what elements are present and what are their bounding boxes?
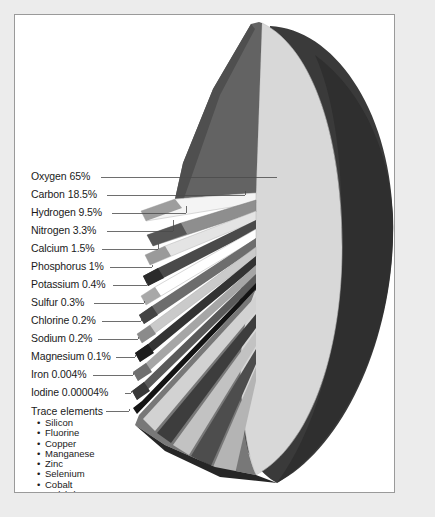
callout-sulfur: Sulfur 0.3% [31, 297, 84, 308]
callout-sodium: Sodium 0.2% [31, 333, 92, 344]
leader-calcium [102, 244, 158, 249]
callout-carbon: Carbon 18.5% [31, 189, 97, 200]
leader-sodium [98, 337, 138, 339]
leader-phosphorus [110, 265, 152, 267]
bullet-icon: • [37, 490, 45, 493]
callout-iron: Iron 0.004% [31, 369, 87, 380]
chart-panel: Oxygen 65% Carbon 18.5% Hydrogen 9.5% Ni… [14, 14, 395, 493]
leader-trace [106, 409, 129, 411]
leader-iodine [125, 391, 131, 393]
trace-elements-list: •Silicon •Fluorine •Copper •Manganese •Z… [37, 418, 99, 493]
leader-chlorine [102, 319, 141, 321]
leader-iron [93, 373, 133, 375]
leader-magnesium [116, 355, 135, 357]
callout-potassium: Potassium 0.4% [31, 279, 105, 290]
callout-iodine: Iodine 0.00004% [31, 387, 108, 398]
trace-elements-heading: Trace elements [31, 405, 103, 417]
leader-potassium [113, 283, 147, 285]
trace-item: •Molybdenum [37, 490, 99, 493]
callout-magnesium: Magnesium 0.1% [31, 351, 111, 362]
callout-chlorine: Chlorine 0.2% [31, 315, 96, 326]
callout-nitrogen: Nitrogen 3.3% [31, 225, 96, 236]
callout-phosphorus: Phosphorus 1% [31, 261, 104, 272]
figure-stage: Oxygen 65% Carbon 18.5% Hydrogen 9.5% Ni… [0, 0, 435, 517]
callout-calcium: Calcium 1.5% [31, 243, 95, 254]
callout-oxygen: Oxygen 65% [31, 171, 90, 182]
callout-hydrogen: Hydrogen 9.5% [31, 207, 102, 218]
leader-sulfur [94, 301, 144, 303]
